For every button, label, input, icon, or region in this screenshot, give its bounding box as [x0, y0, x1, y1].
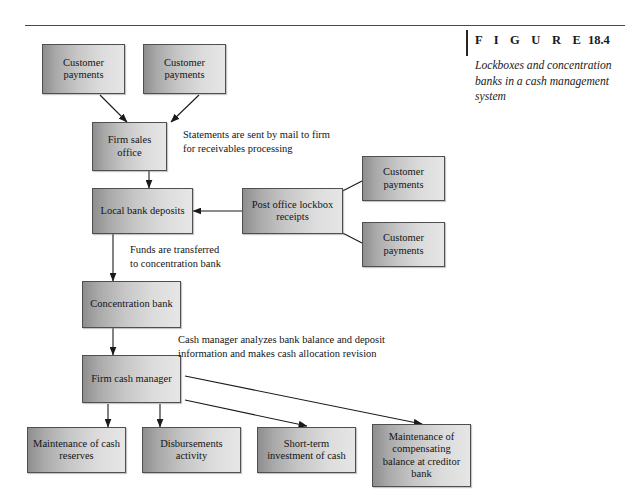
node-maintenance-cash-reserves[interactable]: Maintenance of cash reserves — [27, 427, 126, 473]
node-label: Post office lockbox receipts — [243, 199, 342, 224]
arrow-cp-right-to-firm-sales — [171, 95, 199, 122]
node-label: Short-term investment of cash — [258, 438, 355, 463]
arrow-cash-mgr-to-compensating — [185, 376, 422, 424]
node-firm-cash-manager[interactable]: Firm cash manager — [82, 355, 181, 403]
node-disbursements-activity[interactable]: Disbursements activity — [142, 427, 241, 473]
node-label: Customer payments — [144, 57, 225, 82]
node-customer-payments-top-right[interactable]: Customer payments — [143, 44, 226, 94]
node-customer-payments-right-upper[interactable]: Customer payments — [362, 156, 445, 201]
node-firm-sales-office[interactable]: Firm sales office — [92, 122, 167, 171]
annotation-cash-manager-note: Cash manager analyzes bank balance and d… — [178, 333, 478, 360]
node-post-office-lockbox-receipts[interactable]: Post office lockbox receipts — [242, 188, 343, 234]
figure-label-word: F I G U R E — [475, 33, 585, 47]
annotation-funds-transfer-note: Funds are transferred to concentration b… — [130, 243, 305, 270]
node-short-term-investment[interactable]: Short-term investment of cash — [257, 427, 356, 473]
caption-vertical-rule — [466, 30, 468, 56]
figure-number: 18.4 — [588, 33, 610, 47]
figure-container: F I G U R E18.4 Lockboxes and concentrat… — [0, 0, 629, 498]
node-label: Maintenance of cash reserves — [28, 438, 125, 463]
figure-caption-text: Lockboxes and concentration banks in a c… — [475, 58, 627, 105]
node-label: Local bank deposits — [98, 205, 188, 218]
node-label: Firm sales office — [93, 134, 166, 159]
node-concentration-bank[interactable]: Concentration bank — [82, 281, 181, 328]
node-customer-payments-top-left[interactable]: Customer payments — [42, 44, 125, 94]
node-label: Maintenance of compensating balance at c… — [373, 431, 470, 481]
annotation-statements-note: Statements are sent by mail to firm for … — [183, 128, 398, 155]
arrow-cash-mgr-to-short-term — [185, 400, 307, 426]
node-label: Customer payments — [43, 57, 124, 82]
node-label: Customer payments — [363, 232, 444, 257]
top-horizontal-rule — [25, 25, 625, 26]
node-label: Concentration bank — [87, 298, 176, 311]
figure-caption-panel: F I G U R E18.4 Lockboxes and concentrat… — [466, 28, 629, 118]
arrow-cp-left-to-firm-sales — [100, 95, 127, 122]
node-label: Disbursements activity — [143, 438, 240, 463]
node-customer-payments-right-lower[interactable]: Customer payments — [362, 222, 445, 267]
figure-label: F I G U R E18.4 — [475, 33, 610, 48]
node-label: Customer payments — [363, 166, 444, 191]
node-label: Firm cash manager — [88, 373, 174, 386]
node-compensating-balance[interactable]: Maintenance of compensating balance at c… — [372, 424, 471, 487]
node-local-bank-deposits[interactable]: Local bank deposits — [92, 188, 193, 234]
